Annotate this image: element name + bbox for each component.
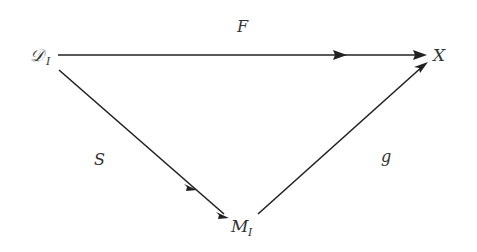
node-x-label: X xyxy=(431,45,446,65)
node-d-i-subscript: I xyxy=(45,55,51,68)
node-x: X xyxy=(431,45,446,65)
node-d-i: 𝒟 I xyxy=(30,45,51,68)
edge-s: S xyxy=(59,70,229,219)
edge-g-label: g xyxy=(381,147,391,166)
edge-g: g xyxy=(258,62,428,214)
edge-f-label: F xyxy=(236,17,249,36)
node-m-i: M I xyxy=(230,216,253,239)
node-d-i-label: 𝒟 xyxy=(30,45,47,65)
edge-f-end-arrowhead xyxy=(413,50,427,60)
edge-s-label: S xyxy=(94,150,105,169)
commutative-diagram: 𝒟 I X M I F S g xyxy=(0,0,477,252)
edge-f-mid-arrowhead xyxy=(333,50,347,60)
edge-f: F xyxy=(58,17,427,60)
node-m-i-subscript: I xyxy=(247,226,253,239)
edge-g-line xyxy=(258,66,423,214)
node-m-i-label: M xyxy=(230,216,249,236)
edge-s-line xyxy=(59,70,224,214)
